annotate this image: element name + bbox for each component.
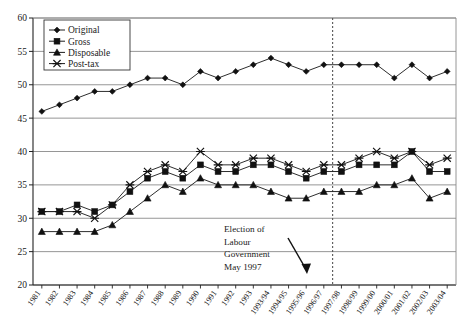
annotation-line: May 1997 xyxy=(224,262,262,272)
data-point xyxy=(145,175,151,181)
data-point xyxy=(233,169,239,175)
y-tick-label: 50 xyxy=(18,80,28,90)
data-point xyxy=(54,38,60,44)
y-tick-label: 40 xyxy=(18,147,28,157)
chart-container: 2025303540455055601981198219831984198519… xyxy=(0,0,463,335)
data-point xyxy=(321,169,327,175)
y-tick-label: 45 xyxy=(18,114,28,124)
data-point xyxy=(374,162,380,168)
data-point xyxy=(180,175,186,181)
data-point xyxy=(303,175,309,181)
data-point xyxy=(127,189,133,195)
data-point xyxy=(268,162,274,168)
data-point xyxy=(92,209,98,215)
y-tick-label: 20 xyxy=(18,280,28,290)
legend-label-gross: Gross xyxy=(68,37,90,47)
data-point xyxy=(198,162,204,168)
data-point xyxy=(444,169,450,175)
legend: OriginalGrossDisposablePost-tax xyxy=(44,20,130,70)
line-chart: 2025303540455055601981198219831984198519… xyxy=(0,0,463,335)
data-point xyxy=(356,162,362,168)
y-tick-label: 55 xyxy=(18,47,28,57)
y-tick-label: 60 xyxy=(18,13,28,23)
annotation-line: Government xyxy=(224,249,270,259)
annotation-line: Labour xyxy=(224,237,251,247)
legend-label-disposable: Disposable xyxy=(68,48,110,58)
data-point xyxy=(427,169,433,175)
y-tick-label: 25 xyxy=(18,247,28,257)
data-point xyxy=(74,202,80,208)
data-point xyxy=(286,169,292,175)
annotation-line: Election of xyxy=(224,224,266,234)
data-point xyxy=(215,169,221,175)
data-point xyxy=(339,169,345,175)
y-tick-label: 30 xyxy=(18,214,28,224)
data-point xyxy=(250,162,256,168)
legend-label-post-tax: Post-tax xyxy=(68,59,99,69)
legend-label-original: Original xyxy=(68,25,100,35)
data-point xyxy=(391,162,397,168)
y-tick-label: 35 xyxy=(18,180,28,190)
data-point xyxy=(162,169,168,175)
